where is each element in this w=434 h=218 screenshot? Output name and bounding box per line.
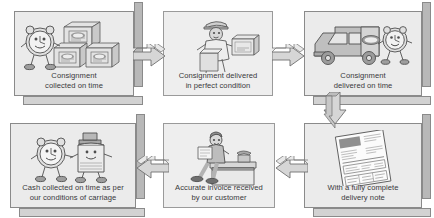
step-caption: Cash collected on time as per our condit… (11, 183, 135, 207)
caption-line-1: With a fully complete (305, 183, 421, 192)
panel-face: Cash collected on time as per our condit… (10, 123, 136, 208)
arrow-left-icon (133, 156, 169, 182)
clock-and-money-characters-icon (11, 128, 135, 187)
caption-line-1: Cash collected on time as per (11, 183, 135, 192)
step-consignment-delivered-perfect[interactable]: Consignment delivered in perfect conditi… (163, 11, 273, 96)
delivery-person-with-parcel-icon (164, 16, 272, 75)
panel-depth-bottom (313, 208, 431, 217)
caption-line-2: delivered on time (305, 81, 421, 90)
panel-face: Consignment collected on time (14, 11, 134, 96)
panel-face: Accurate invoice received by our custome… (163, 123, 275, 208)
panel-depth-bottom (19, 208, 145, 217)
panel-depth-bottom (23, 96, 143, 105)
arrow-right-icon (272, 44, 308, 70)
arrow-right-icon (133, 44, 169, 70)
arrow-down-icon (322, 92, 350, 128)
caption-line-2: our conditions of carriage (11, 193, 135, 202)
panel-depth-right (422, 2, 431, 87)
clock-character-with-parcels-icon (15, 16, 133, 75)
connector-perfect-to-on-time (272, 44, 308, 70)
panel-depth-right (422, 114, 431, 199)
delivery-van-with-clock-character-icon (305, 16, 421, 75)
caption-line-1: Consignment (305, 71, 421, 80)
panel-face: Consignment delivered on time (304, 11, 422, 96)
step-caption: Consignment delivered in perfect conditi… (164, 71, 272, 95)
step-caption: With a fully complete delivery note (305, 183, 421, 207)
step-delivery-note[interactable]: With a fully complete delivery note (304, 123, 422, 208)
caption-line-2: by our customer (164, 193, 274, 202)
arrow-left-icon (272, 156, 308, 182)
step-consignment-collected[interactable]: Consignment collected on time (14, 11, 134, 96)
step-caption: Accurate invoice received by our custome… (164, 183, 274, 207)
step-cash-collected[interactable]: Cash collected on time as per our condit… (10, 123, 136, 208)
caption-line-1: Consignment (15, 71, 133, 80)
step-accurate-invoice[interactable]: Accurate invoice received by our custome… (163, 123, 275, 208)
connector-note-to-invoice (272, 156, 308, 182)
panel-face: With a fully complete delivery note (304, 123, 422, 208)
caption-line-2: in perfect condition (164, 81, 272, 90)
caption-line-2: delivery note (305, 193, 421, 202)
step-consignment-delivered-on-time[interactable]: Consignment delivered on time (304, 11, 422, 96)
person-seated-on-desk-icon (164, 128, 274, 187)
caption-line-2: collected on time (15, 81, 133, 90)
panel-face: Consignment delivered in perfect conditi… (163, 11, 273, 96)
caption-line-1: Accurate invoice received (164, 183, 274, 192)
connector-on-time-to-note (322, 92, 350, 128)
process-flow-diagram: Consignment collected on time (0, 0, 434, 218)
step-caption: Consignment collected on time (15, 71, 133, 95)
connector-collected-to-perfect (133, 44, 169, 70)
connector-invoice-to-cash (133, 156, 169, 182)
caption-line-1: Consignment delivered (164, 71, 272, 80)
delivery-note-document-icon (305, 128, 421, 187)
